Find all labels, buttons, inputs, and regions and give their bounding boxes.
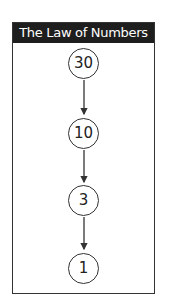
node-10: 10: [68, 118, 99, 149]
node-30: 30: [68, 48, 99, 79]
node-1: 1: [68, 253, 99, 284]
node-3: 3: [68, 185, 99, 216]
